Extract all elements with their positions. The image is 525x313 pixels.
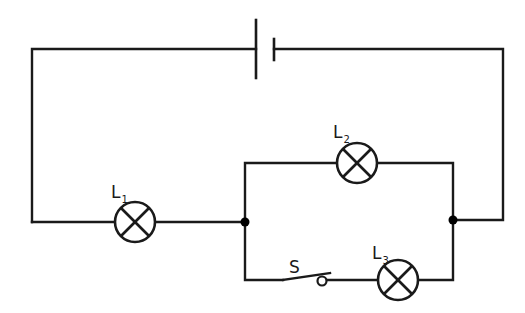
wire-top-right <box>274 49 503 220</box>
wire-top-left <box>32 49 256 222</box>
wire-branch-lower-left <box>245 222 283 280</box>
wire-branch-upper <box>245 163 337 222</box>
lamp-l1-icon <box>115 202 155 242</box>
label-l1: L1 <box>111 184 128 205</box>
lamp-l2-icon <box>337 143 377 183</box>
label-switch: S <box>289 259 300 276</box>
junction-right <box>449 216 458 225</box>
junction-left <box>241 218 250 227</box>
label-l2: L2 <box>333 124 350 145</box>
lamp-l3-icon <box>378 260 418 300</box>
circuit-diagram <box>0 0 525 313</box>
label-l3: L3 <box>372 245 389 266</box>
battery-icon <box>256 20 274 78</box>
